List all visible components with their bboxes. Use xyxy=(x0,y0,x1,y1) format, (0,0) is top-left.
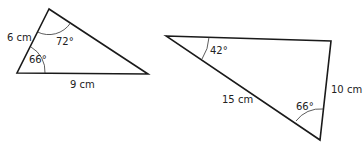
angle-label-66-left: 66° xyxy=(29,54,47,65)
side-label-15cm: 15 cm xyxy=(222,94,253,105)
angle-label-42: 42° xyxy=(210,45,228,56)
angle-arc-72 xyxy=(38,23,71,35)
side-label-6cm: 6 cm xyxy=(7,32,32,43)
triangle-2-outline xyxy=(166,36,331,140)
geometry-figure: 6 cm 9 cm 72° 66° 15 cm 10 cm 42° 66° xyxy=(0,0,363,149)
triangle-1: 6 cm 9 cm 72° 66° xyxy=(7,9,148,90)
angle-label-66-right: 66° xyxy=(296,101,314,112)
side-label-10cm: 10 cm xyxy=(331,84,362,95)
angle-arc-42 xyxy=(202,37,209,59)
triangle-2: 15 cm 10 cm 42° 66° xyxy=(166,36,362,140)
angle-label-72: 72° xyxy=(56,36,74,47)
side-label-9cm: 9 cm xyxy=(70,79,95,90)
